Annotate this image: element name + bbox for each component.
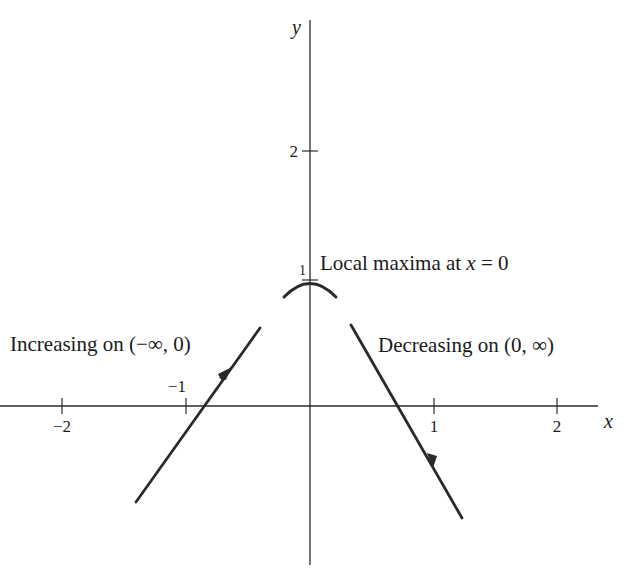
increasing-annotation: Increasing on (−∞, 0) [10,332,191,356]
y-tick-label-2: 2 [290,142,299,161]
local-max-eq: = 0 [476,251,509,275]
x-axis-label: x [603,410,613,432]
local-max-annotation: Local maxima at x = 0 [320,251,509,275]
x-tick-label-neg1: −1 [168,377,186,396]
x-tick-label-2: 2 [553,417,562,436]
x-tick-label-1: 1 [430,417,439,436]
y-tick-label-1: 1 [299,263,306,278]
y-axis-label: y [290,16,301,39]
diagram-canvas: −2 −1 1 2 2 1 x y Local maxima at x = 0 … [0,0,629,580]
x-tick-label-neg2: −2 [53,417,71,436]
local-max-text: Local maxima at [320,251,466,275]
decreasing-annotation: Decreasing on (0, ∞) [378,333,554,357]
